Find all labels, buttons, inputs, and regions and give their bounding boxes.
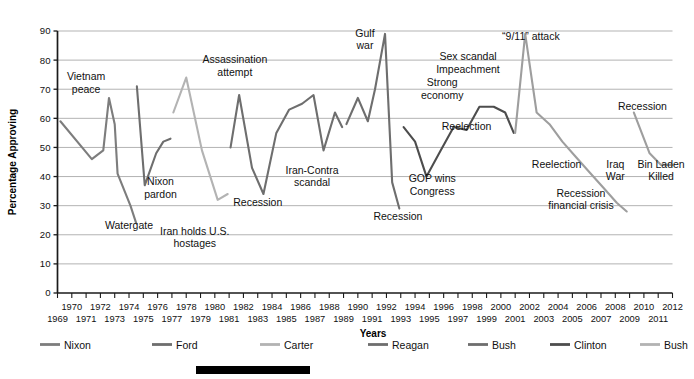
legend-label-4: Bush (492, 339, 516, 351)
x-tick-label-2004: 2004 (548, 302, 569, 312)
x-tick-label-1991: 1991 (362, 314, 383, 324)
annotation-10: GOP winsCongress (409, 172, 456, 197)
annotation-8: Recession (373, 210, 422, 222)
x-tick-label-2002: 2002 (519, 302, 540, 312)
x-tick-label-1981: 1981 (219, 314, 240, 324)
x-tick-label-2001: 2001 (505, 314, 526, 324)
x-tick-label-1969: 1969 (47, 314, 68, 324)
x-tick-label-1998: 1998 (462, 302, 483, 312)
annotation-3: Iran holds U.S.hostages (160, 225, 229, 250)
annotation-17: Recession (618, 100, 667, 112)
x-tick-label-2009: 2009 (619, 314, 640, 324)
x-tick-label-1990: 1990 (348, 302, 369, 312)
x-tick-label-2006: 2006 (576, 302, 597, 312)
y-tick-label-0: 0 (45, 287, 50, 298)
x-tick-label-1977: 1977 (162, 314, 183, 324)
y-tick-label-60: 60 (40, 113, 51, 124)
legend-label-6: Bush (664, 339, 688, 351)
x-tick-label-1997: 1997 (448, 314, 469, 324)
y-axis-title: Percentage Approving (7, 109, 18, 215)
y-tick-label-20: 20 (40, 229, 51, 240)
x-tick-label-1987: 1987 (305, 314, 326, 324)
x-tick-label-2007: 2007 (591, 314, 612, 324)
y-tick-label-80: 80 (40, 55, 51, 66)
annotation-4: Assassinationattempt (202, 53, 267, 77)
legend-label-5: Clinton (574, 339, 607, 351)
series-line-clinton-5 (404, 107, 514, 177)
x-tick-label-1975: 1975 (133, 314, 154, 324)
annotation-13: “9/11” attack (502, 30, 560, 42)
x-tick-label-1973: 1973 (104, 314, 125, 324)
legend-label-3: Reagan (392, 339, 429, 351)
x-tick-label-2008: 2008 (605, 302, 626, 312)
x-tick-label-1982: 1982 (233, 302, 254, 312)
x-tick-label-1983: 1983 (247, 314, 268, 324)
annotation-15: Recessionfinancial crisis (548, 187, 613, 212)
x-axis-title: Years (360, 328, 387, 339)
series-line-ford-1 (137, 86, 171, 185)
series-line-nixon-0 (60, 98, 136, 223)
chart-svg: 0102030405060708090Percentage Approving1… (0, 0, 694, 379)
x-tick-label-1993: 1993 (390, 314, 411, 324)
annotation-6: Iran-Contrascandal (286, 164, 339, 189)
x-tick-label-1978: 1978 (176, 302, 197, 312)
annotation-18: Bin LadenKilled (637, 158, 684, 183)
annotation-14: Reelection (532, 158, 582, 170)
series-line-carter-2 (173, 78, 227, 200)
x-tick-label-1994: 1994 (405, 302, 426, 312)
annotation-2: Nixonpardon (144, 175, 177, 200)
legend-label-2: Carter (284, 339, 314, 351)
x-tick-label-1979: 1979 (190, 314, 211, 324)
x-tick-label-1974: 1974 (119, 302, 140, 312)
y-tick-label-10: 10 (40, 258, 51, 269)
x-tick-label-1976: 1976 (147, 302, 168, 312)
annotation-16: IraqWar (606, 158, 625, 183)
legend-label-1: Ford (176, 339, 198, 351)
x-tick-label-1999: 1999 (476, 314, 497, 324)
approval-rating-chart: 0102030405060708090Percentage Approving1… (0, 0, 694, 379)
x-tick-label-2011: 2011 (648, 314, 668, 324)
y-tick-label-50: 50 (40, 142, 51, 153)
annotation-5: Recession (233, 196, 282, 208)
x-tick-label-1971: 1971 (76, 314, 97, 324)
x-tick-label-2010: 2010 (634, 302, 655, 312)
annotation-7: Gulfwar (355, 27, 374, 52)
annotation-11: Sex scandalImpeachment (436, 50, 500, 75)
y-tick-label-30: 30 (40, 200, 51, 211)
x-tick-label-2000: 2000 (491, 302, 512, 312)
x-tick-label-1972: 1972 (90, 302, 111, 312)
x-tick-label-1980: 1980 (204, 302, 225, 312)
x-tick-label-2003: 2003 (533, 314, 554, 324)
annotation-9: Strongeconomy (421, 76, 464, 101)
x-tick-label-1988: 1988 (319, 302, 340, 312)
x-tick-label-1970: 1970 (61, 302, 82, 312)
x-tick-label-1985: 1985 (276, 314, 297, 324)
x-tick-label-1995: 1995 (419, 314, 440, 324)
x-tick-label-1984: 1984 (262, 302, 283, 312)
y-tick-label-90: 90 (40, 25, 51, 36)
footer-black-bar (196, 366, 310, 374)
x-tick-label-1992: 1992 (376, 302, 397, 312)
x-tick-label-1989: 1989 (333, 314, 354, 324)
x-tick-label-2005: 2005 (562, 314, 583, 324)
x-tick-label-1996: 1996 (433, 302, 454, 312)
y-tick-label-40: 40 (40, 171, 51, 182)
y-tick-label-70: 70 (40, 84, 51, 95)
x-tick-label-1986: 1986 (290, 302, 311, 312)
annotation-0: Vietnampeace (67, 70, 106, 95)
legend-label-0: Nixon (64, 339, 91, 351)
x-tick-label-2012: 2012 (662, 302, 683, 312)
annotation-1: Watergate (105, 219, 153, 231)
annotation-12: Reelection (442, 120, 492, 132)
